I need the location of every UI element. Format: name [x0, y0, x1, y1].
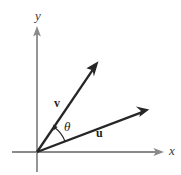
vector-u-arrowhead-icon: [136, 106, 149, 117]
x-axis-label: x: [169, 144, 175, 157]
vector-u-label: u: [96, 127, 103, 139]
vector-angle-figure: y x v u θ: [0, 0, 181, 175]
angle-theta-label: θ: [64, 120, 70, 133]
vector-u-shaft: [37, 112, 142, 152]
vector-v-label: v: [54, 97, 60, 109]
y-axis-label: y: [35, 9, 41, 22]
vector-v-arrowhead-icon: [86, 61, 98, 76]
vector-v-shaft: [37, 69, 93, 152]
vector-diagram-canvas: [0, 0, 181, 175]
